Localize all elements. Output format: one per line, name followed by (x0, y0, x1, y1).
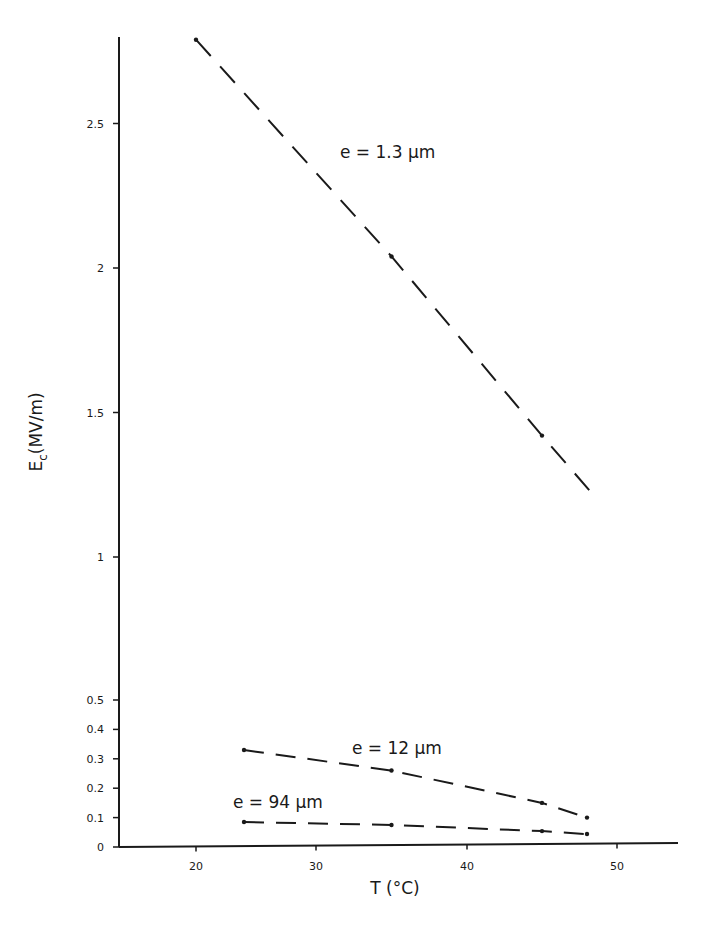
y-tick-label: 2.5 (87, 118, 105, 131)
y-axis-title-main: E (26, 461, 46, 472)
series-label-0: e = 1.3 µm (340, 142, 435, 162)
x-tick-label: 30 (309, 860, 323, 873)
data-point (194, 37, 198, 41)
y-tick-label: 0.1 (87, 812, 105, 825)
x-axis-line (119, 843, 678, 847)
y-axis-title-sub: c (36, 454, 50, 461)
y-tick-label: 0.5 (87, 694, 105, 707)
y-tick-label: 2 (97, 262, 104, 275)
x-ticks: 20304050 (189, 843, 624, 873)
series-label-2: e = 94 µm (233, 792, 323, 812)
y-tick-label: 0.4 (87, 723, 105, 736)
series-line-2 (244, 822, 587, 834)
y-axis-title: Ec(MV/m) (26, 392, 50, 471)
y-tick-label: 1 (97, 551, 104, 564)
data-point (585, 832, 589, 836)
series-line-0 (196, 40, 595, 497)
series-labels: e = 1.3 µme = 12 µme = 94 µm (233, 142, 442, 812)
svg-text:Ec(MV/m): Ec(MV/m) (26, 392, 50, 471)
y-tick-label: 0 (97, 841, 104, 854)
data-point (242, 820, 246, 824)
data-point (540, 829, 544, 833)
y-axis-title-unit: (MV/m) (26, 392, 46, 454)
x-tick-label: 20 (189, 860, 203, 873)
data-point (540, 801, 544, 805)
x-tick-label: 40 (460, 860, 474, 873)
data-point (540, 433, 544, 437)
x-axis-title: T (°C) (369, 878, 419, 898)
data-point (389, 254, 393, 258)
series-label-1: e = 12 µm (352, 738, 442, 758)
y-tick-label: 1.5 (87, 407, 105, 420)
y-tick-label: 0.2 (87, 782, 105, 795)
data-point (585, 815, 589, 819)
y-tick-label: 0.3 (87, 753, 105, 766)
data-point (389, 823, 393, 827)
y-ticks: 00.10.20.30.40.511.522.5 (87, 118, 120, 855)
x-tick-label: 50 (610, 860, 624, 873)
chart-canvas: 00.10.20.30.40.511.522.5 20304050 e = 1.… (0, 0, 711, 929)
data-point (389, 768, 393, 772)
data-point (242, 748, 246, 752)
